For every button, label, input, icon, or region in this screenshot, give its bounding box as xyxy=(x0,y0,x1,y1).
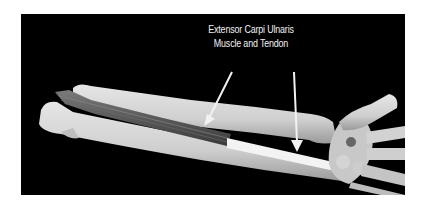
thumb-bone xyxy=(339,94,397,130)
label-line-2: Muscle and Tendon xyxy=(166,36,336,50)
figure-label: Extensor Carpi Ulnaris Muscle and Tendon xyxy=(151,14,351,54)
label-line-1: Extensor Carpi Ulnaris xyxy=(166,22,336,36)
anatomy-illustration: Extensor Carpi Ulnaris Muscle and Tendon xyxy=(21,14,405,195)
